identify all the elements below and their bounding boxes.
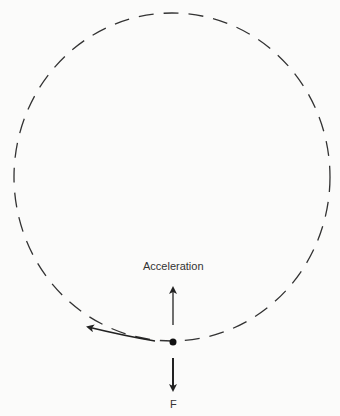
force-label: F [170, 398, 177, 410]
velocity-arrow [88, 327, 155, 341]
acceleration-label: Acceleration [143, 260, 204, 272]
circular-motion-diagram [0, 0, 340, 416]
circular-path [14, 13, 330, 341]
object-dot [170, 339, 177, 346]
